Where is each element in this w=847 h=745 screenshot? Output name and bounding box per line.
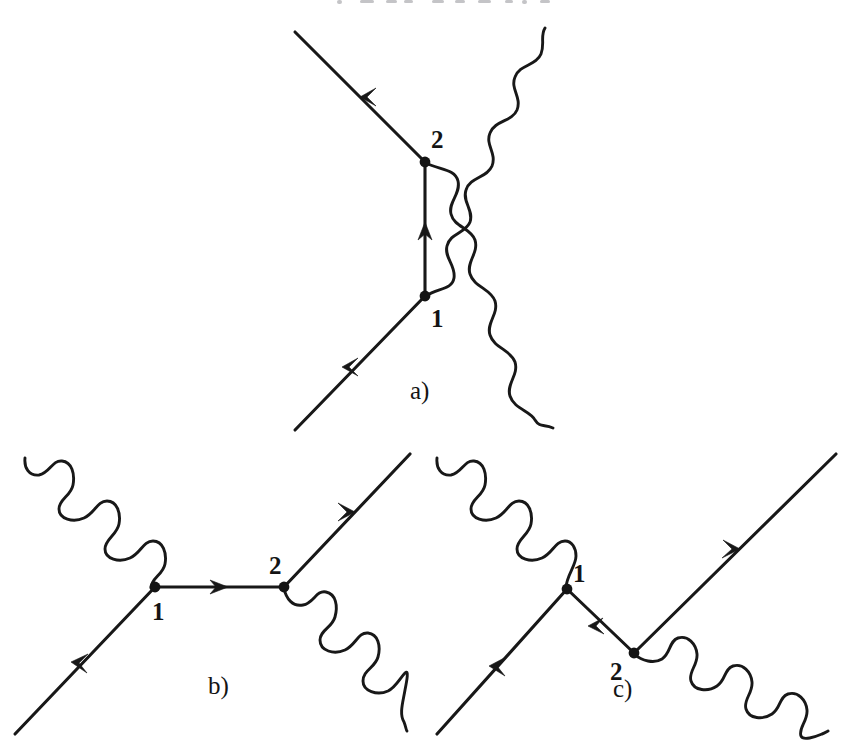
panel-b-vertex-2-dot <box>279 582 290 593</box>
panel-c-internal-propagator <box>567 589 634 653</box>
panel-b-vertex-label-2: 2 <box>269 552 282 579</box>
panel-b-outgoing-photon <box>284 588 407 731</box>
panel-c-vertex-label-1: 1 <box>573 560 586 587</box>
panel-b-vertex-label-1: 1 <box>152 598 165 625</box>
panel-a-vertex-label-2: 2 <box>431 126 444 153</box>
panel-b-incoming-photon <box>25 458 166 588</box>
feynman-diagram-canvas: 1 2 a) <box>0 0 847 745</box>
panel-a-outgoing-electron <box>295 32 425 162</box>
panel-a: 1 2 a) <box>295 28 553 430</box>
panel-c-caption: c) <box>613 675 632 703</box>
panel-a-incoming-electron <box>295 296 425 430</box>
panel-c: 1 2 c) <box>437 454 836 738</box>
panel-a-vertex-1-dot <box>420 291 431 302</box>
panel-c-incoming-electron <box>437 589 567 734</box>
feynman-figure: 1 2 a) <box>0 0 847 745</box>
panel-a-internal-propagator <box>418 162 432 296</box>
panel-a-photon-from-vertex-2 <box>426 163 553 428</box>
panel-a-vertex-label-1: 1 <box>431 305 444 332</box>
panel-b-caption: b) <box>208 672 229 700</box>
panel-a-caption: a) <box>410 377 429 405</box>
panel-c-incoming-photon <box>437 458 576 588</box>
panel-b-vertex-1-dot <box>150 582 161 593</box>
panel-b-incoming-electron <box>15 587 155 734</box>
panel-c-vertex-1-dot <box>562 584 573 595</box>
panel-c-outgoing-photon <box>634 637 828 738</box>
cropped-text-sliver <box>337 0 550 4</box>
panel-c-outgoing-electron <box>634 454 836 653</box>
panel-b: 1 2 b) <box>15 454 410 734</box>
panel-b-internal-propagator <box>155 580 284 594</box>
panel-a-vertex-2-dot <box>420 157 431 168</box>
panel-b-outgoing-electron <box>284 454 410 587</box>
panel-c-vertex-2-dot <box>629 648 640 659</box>
panel-a-photon-from-vertex-1 <box>426 28 545 296</box>
